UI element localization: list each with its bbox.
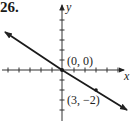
x-axis: x <box>2 68 130 84</box>
coordinate-plot: x y (0, 0) (3, −2) <box>0 0 132 121</box>
origin-label: (0, 0) <box>67 54 93 68</box>
y-axis-label: y <box>65 0 72 14</box>
x-axis-label: x <box>123 69 130 83</box>
point-3-neg2 <box>94 88 98 92</box>
origin-point <box>60 68 64 72</box>
point-label: (3, −2) <box>67 93 100 107</box>
graph-line <box>5 32 62 70</box>
